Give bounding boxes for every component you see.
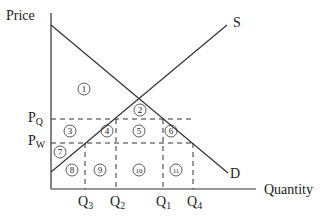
pw-label: PW bbox=[28, 133, 46, 150]
q2-label: Q2 bbox=[110, 194, 125, 211]
x-axis-label: Quantity bbox=[264, 182, 313, 197]
demand-label: D bbox=[230, 166, 240, 181]
region-3: 3 bbox=[68, 126, 73, 136]
region-10: 10 bbox=[136, 167, 144, 175]
q4-label: Q4 bbox=[187, 194, 202, 211]
demand-curve bbox=[51, 25, 228, 173]
supply-label: S bbox=[233, 15, 241, 30]
q1-label: Q1 bbox=[156, 194, 171, 211]
region-11: 11 bbox=[173, 167, 180, 175]
region-6: 6 bbox=[169, 126, 174, 136]
supply-demand-diagram: Price Quantity S D PQ PW Q3 Q2 Q1 Q4 1 2… bbox=[0, 0, 326, 217]
region-4: 4 bbox=[105, 126, 110, 136]
y-axis-label: Price bbox=[6, 8, 35, 23]
region-1: 1 bbox=[82, 84, 87, 94]
region-8: 8 bbox=[70, 165, 75, 175]
region-7: 7 bbox=[58, 147, 63, 157]
pq-label: PQ bbox=[28, 110, 44, 127]
q3-label: Q3 bbox=[78, 194, 93, 211]
region-2: 2 bbox=[138, 105, 143, 115]
region-5: 5 bbox=[137, 126, 142, 136]
region-9: 9 bbox=[98, 165, 103, 175]
